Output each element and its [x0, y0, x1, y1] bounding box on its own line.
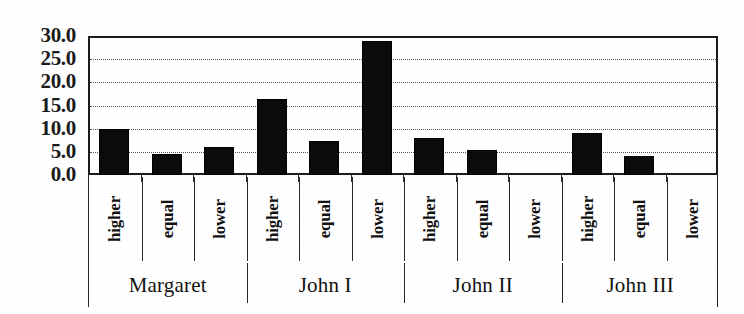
category-divider [352, 177, 353, 261]
bar [204, 147, 234, 175]
category-label: higher [105, 196, 125, 242]
bar [467, 150, 497, 175]
category-divider [509, 177, 510, 261]
category-cell: lower [194, 175, 247, 263]
category-divider [614, 177, 615, 261]
category-cell: equal [457, 175, 510, 263]
bar [309, 141, 339, 175]
bar-slot [613, 36, 666, 175]
group-divider [247, 263, 248, 303]
category-cell: higher [247, 175, 300, 263]
category-cell: lower [667, 175, 720, 263]
category-label: higher [578, 196, 598, 242]
group-label: Margaret [129, 273, 207, 298]
bars-layer [88, 36, 718, 175]
bar-slot [351, 36, 404, 175]
category-cell: lower [509, 175, 562, 263]
category-label: equal [473, 200, 493, 239]
category-cell: equal [299, 175, 352, 263]
category-label: equal [158, 200, 178, 239]
bar-slot [246, 36, 299, 175]
category-label: lower [683, 199, 703, 239]
category-label: lower [210, 199, 230, 239]
group-label: John I [299, 273, 352, 298]
y-tick-label: 25.0 [0, 48, 76, 69]
category-cell: equal [142, 175, 195, 263]
group-cell: John II [404, 263, 562, 307]
category-divider [404, 177, 405, 261]
category-label: equal [630, 200, 650, 239]
group-cell: Margaret [89, 263, 247, 307]
group-label: John II [453, 273, 513, 298]
category-label: lower [525, 199, 545, 239]
category-divider [457, 177, 458, 261]
category-cell: equal [614, 175, 667, 263]
category-cell: lower [352, 175, 405, 263]
category-cell: higher [404, 175, 457, 263]
category-label: higher [420, 196, 440, 242]
y-tick-label: 10.0 [0, 118, 76, 139]
group-divider [404, 263, 405, 303]
category-divider [667, 177, 668, 261]
category-label-band: higherequallowerhigherequallowerhighereq… [88, 175, 718, 263]
bar-slot [193, 36, 246, 175]
bar-slot [298, 36, 351, 175]
bar-slot [508, 36, 561, 175]
group-divider [562, 263, 563, 303]
category-divider [194, 177, 195, 261]
bar [414, 138, 444, 175]
category-label: equal [315, 200, 335, 239]
group-cell: John III [562, 263, 720, 307]
category-divider [142, 177, 143, 261]
bar-slot [403, 36, 456, 175]
bar-slot [88, 36, 141, 175]
bar [624, 156, 654, 175]
category-label: higher [263, 196, 283, 242]
y-tick-label: 20.0 [0, 71, 76, 92]
y-tick-label: 15.0 [0, 95, 76, 116]
bar-slot [561, 36, 614, 175]
bar [362, 41, 392, 175]
y-tick-label: 5.0 [0, 141, 76, 162]
category-divider [562, 177, 563, 261]
category-cell: higher [89, 175, 142, 263]
group-label: John III [606, 273, 674, 298]
bar [99, 129, 129, 175]
bar [572, 133, 602, 175]
group-cell: John I [247, 263, 405, 307]
bar [152, 154, 182, 175]
y-tick-label: 0.0 [0, 164, 76, 185]
category-cell: higher [562, 175, 615, 263]
bar [257, 99, 287, 175]
group-label-band: MargaretJohn IJohn IIJohn III [88, 263, 718, 307]
category-divider [299, 177, 300, 261]
bar-slot [141, 36, 194, 175]
y-tick-label: 30.0 [0, 25, 76, 46]
bar-slot [456, 36, 509, 175]
bar-slot [666, 36, 719, 175]
y-axis-tick-labels: 30.025.020.015.010.05.00.0 [0, 26, 82, 184]
bar-chart: 30.025.020.015.010.05.00.0 higherequallo… [0, 0, 744, 314]
category-divider [247, 177, 248, 261]
category-label: lower [368, 199, 388, 239]
